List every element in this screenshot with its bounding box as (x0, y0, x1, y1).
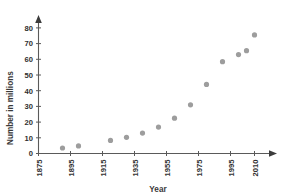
data-point (172, 116, 177, 121)
x-tick-label: 1875 (35, 159, 44, 177)
x-tick-label: 1915 (99, 159, 108, 177)
x-tick-label: 2010 (251, 160, 260, 177)
axis-lines (35, 15, 277, 157)
x-tick-label: 1995 (227, 159, 236, 177)
data-point-series (60, 32, 257, 150)
data-point (156, 125, 161, 130)
x-axis-title-text: Year (149, 185, 167, 194)
x-tick-label: 1935 (131, 159, 140, 177)
chart-canvas: Number in millions Year 0102030405060708… (0, 0, 281, 196)
x-axis-ticks: 18751895191519351955197519952010 (35, 151, 260, 176)
y-axis-title-text: Number in millions (6, 71, 15, 145)
data-point (76, 143, 81, 148)
data-point (244, 48, 249, 53)
y-tick-label: 30 (25, 102, 33, 111)
x-tick-label: 1895 (67, 159, 76, 177)
y-tick-label: 80 (25, 24, 33, 33)
data-point (140, 130, 145, 135)
y-tick-label: 10 (25, 134, 33, 143)
y-tick-label: 60 (25, 55, 33, 64)
data-point (252, 32, 257, 37)
y-axis-ticks: 01020304050607080 (25, 24, 41, 159)
data-point (204, 82, 209, 87)
y-tick-label: 20 (25, 118, 33, 127)
y-tick-label: 50 (25, 71, 33, 80)
data-point (188, 102, 193, 107)
x-axis-arrow-icon (269, 150, 277, 157)
data-point (60, 145, 65, 150)
data-point (236, 52, 241, 57)
x-tick-label: 1955 (163, 159, 172, 177)
y-tick-label: 0 (29, 149, 33, 158)
scatter-chart: Number in millions Year 0102030405060708… (0, 0, 281, 196)
y-axis-arrow-icon (35, 15, 42, 23)
y-tick-label: 40 (25, 87, 33, 96)
data-point (220, 59, 225, 64)
data-point (108, 138, 113, 143)
data-point (124, 135, 129, 140)
y-axis-title: Number in millions (6, 71, 15, 145)
x-tick-label: 1975 (195, 159, 204, 177)
y-tick-label: 70 (25, 39, 33, 48)
